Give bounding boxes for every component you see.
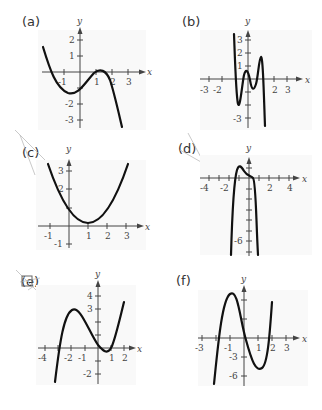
svg-text:3: 3 [124, 231, 130, 241]
svg-text:3: 3 [58, 166, 64, 176]
svg-text:-2: -2 [65, 99, 74, 109]
graph-c: x y -1 1 2 3 3 2 -1 [36, 144, 150, 250]
svg-text:2: 2 [105, 231, 111, 241]
svg-text:-6: -6 [229, 371, 238, 381]
svg-text:1: 1 [69, 51, 75, 61]
svg-text:1: 1 [86, 231, 92, 241]
graph-e: x y -4 -2 -1 1 2 4 3 -2 [36, 269, 142, 385]
graph-b: x y -3 -2 2 3 3 2 1 -3 [200, 16, 312, 130]
svg-text:y: y [245, 143, 252, 153]
svg-text:y: y [240, 274, 247, 284]
svg-text:-4: -4 [200, 183, 209, 193]
svg-text:-6: -6 [234, 236, 243, 246]
graph-f: x y -3 -1 1 2 3 -3 -6 [195, 274, 308, 386]
svg-text:-1: -1 [78, 353, 87, 363]
svg-text:x: x [145, 222, 150, 232]
svg-text:-3: -3 [233, 114, 242, 124]
svg-text:2: 2 [237, 48, 243, 58]
svg-text:-3: -3 [229, 352, 238, 362]
svg-text:2: 2 [122, 353, 128, 363]
figure-canvas: x y -1 1 2 3 2 1 -2 -3 x y [0, 0, 322, 410]
svg-text:3: 3 [237, 35, 243, 45]
svg-text:3: 3 [126, 77, 132, 87]
svg-text:3: 3 [87, 304, 93, 314]
svg-text:y: y [94, 269, 101, 279]
svg-text:-1: -1 [54, 239, 63, 249]
svg-text:x: x [147, 67, 152, 77]
svg-text:y: y [65, 144, 72, 154]
svg-text:1: 1 [256, 343, 262, 353]
svg-text:x: x [137, 344, 142, 354]
svg-text:-4: -4 [38, 353, 47, 363]
graph-d: x y -4 -2 2 4 -6 [200, 143, 312, 256]
svg-text:-2: -2 [64, 353, 73, 363]
svg-text:1: 1 [237, 61, 243, 71]
svg-text:4: 4 [87, 291, 93, 301]
svg-text:3: 3 [284, 343, 290, 353]
svg-text:x: x [302, 334, 307, 344]
svg-text:y: y [76, 16, 83, 26]
svg-text:-3: -3 [195, 343, 204, 353]
graph-a: x y -1 1 2 3 2 1 -2 -3 [38, 16, 152, 130]
svg-text:-2: -2 [213, 85, 222, 95]
svg-text:-1: -1 [44, 231, 53, 241]
svg-text:-3: -3 [65, 115, 74, 125]
svg-text:2: 2 [270, 343, 276, 353]
svg-text:-2: -2 [220, 183, 229, 193]
svg-text:2: 2 [267, 183, 273, 193]
svg-text:x: x [302, 174, 307, 184]
svg-text:4: 4 [287, 183, 293, 193]
svg-text:2: 2 [272, 85, 278, 95]
svg-text:x: x [305, 75, 310, 85]
svg-text:y: y [244, 16, 251, 26]
svg-text:1: 1 [109, 353, 115, 363]
svg-text:-2: -2 [83, 369, 92, 379]
svg-text:3: 3 [285, 85, 291, 95]
svg-text:2: 2 [69, 35, 75, 45]
svg-text:-3: -3 [200, 85, 209, 95]
svg-text:1: 1 [94, 77, 100, 87]
